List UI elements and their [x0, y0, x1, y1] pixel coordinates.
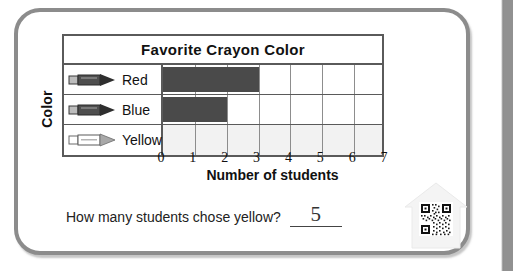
- worksheet-card: Color Favorite Crayon Color: [14, 8, 470, 255]
- worksheet-page: Color Favorite Crayon Color: [0, 0, 513, 271]
- house-qr-watermark: [402, 180, 470, 252]
- chart-table: Favorite Crayon Color Red: [62, 34, 384, 157]
- answer-input[interactable]: 5: [290, 202, 342, 227]
- yellow-crayon-icon: [68, 133, 118, 147]
- chart-title-row: Favorite Crayon Color: [64, 36, 382, 65]
- y-axis-label-text: Color: [39, 90, 55, 128]
- question-line: How many students chose yellow? 5: [66, 202, 342, 227]
- chart-title: Favorite Crayon Color: [141, 41, 305, 58]
- x-axis-label: Number of students: [161, 167, 384, 183]
- bar-red: [163, 67, 259, 92]
- row-header-yellow: Yellow: [64, 125, 163, 155]
- x-tick-2: 2: [221, 150, 228, 166]
- row-label-blue: Blue: [122, 102, 150, 118]
- x-axis-ticks: 0 1 2 3 4 5 6 7: [161, 150, 384, 167]
- bar-track-red: [163, 65, 382, 94]
- row-label-yellow: Yellow: [122, 132, 162, 148]
- bar-track-blue: [163, 95, 382, 124]
- chart-row-blue: Blue: [64, 95, 382, 125]
- row-header-red: Red: [64, 65, 163, 94]
- bar-chart: Color Favorite Crayon Color: [38, 34, 398, 179]
- x-tick-4: 4: [285, 150, 292, 166]
- chart-row-red: Red: [64, 65, 382, 95]
- qr-code-icon: [419, 202, 453, 236]
- x-tick-1: 1: [189, 150, 196, 166]
- x-tick-5: 5: [317, 150, 324, 166]
- page-right-edge-strip: [504, 0, 513, 271]
- x-tick-6: 6: [349, 150, 356, 166]
- answer-value: 5: [311, 204, 322, 226]
- red-crayon-icon: [68, 73, 118, 87]
- bar-blue: [163, 97, 227, 122]
- row-label-red: Red: [122, 72, 148, 88]
- x-tick-0: 0: [158, 150, 165, 166]
- x-tick-3: 3: [253, 150, 260, 166]
- x-tick-7: 7: [381, 150, 388, 166]
- row-header-blue: Blue: [64, 95, 163, 124]
- blue-crayon-icon: [68, 103, 118, 117]
- y-axis-label: Color: [38, 74, 56, 144]
- question-text: How many students chose yellow?: [66, 210, 281, 227]
